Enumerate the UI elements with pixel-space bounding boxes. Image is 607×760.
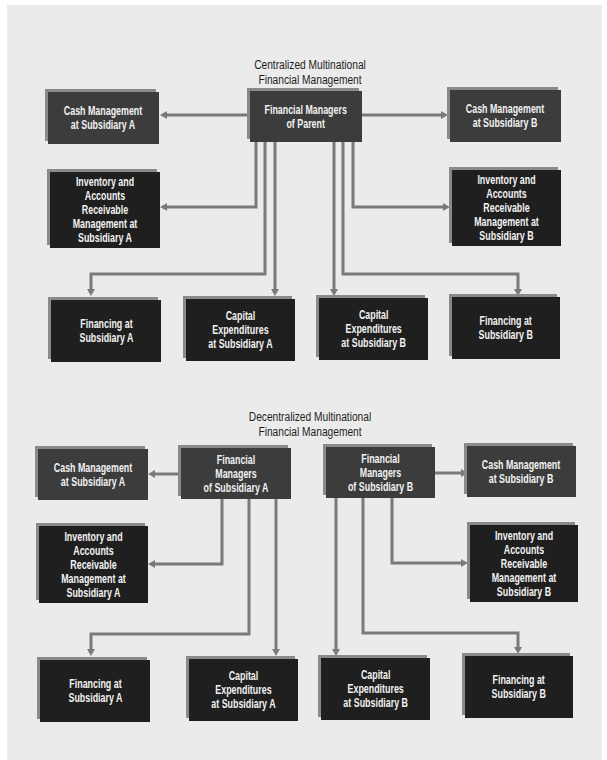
box-label: Cash Management: [482, 458, 560, 472]
box-capital-expenditures-a: Capital Expenditures at Subsidiary A: [189, 659, 298, 721]
box-label: Inventory and: [466, 173, 547, 187]
box-label: Financing at: [492, 673, 546, 687]
box-label: Financial Managers: [195, 453, 276, 481]
box-label: of Subsidiary B: [340, 480, 421, 494]
box-label: Accounts Receivable: [484, 543, 564, 571]
box-inventory-ar-b: Inventory and Accounts Receivable Manage…: [470, 525, 578, 602]
box-label: Inventory and: [53, 530, 134, 544]
box-label: Management at: [64, 217, 145, 231]
box-inventory-ar-a: Inventory and Accounts Receivable Manage…: [39, 526, 148, 603]
box-label: Capital: [343, 668, 408, 682]
decentralized-title: Decentralized Multinational Financial Ma…: [217, 410, 404, 440]
box-label: Expenditures: [211, 683, 275, 697]
box-label: of Parent: [265, 117, 347, 131]
box-label: at Subsidiary B: [466, 116, 544, 130]
box-label: Accounts Receivable: [64, 189, 145, 217]
box-label: Expenditures: [341, 322, 406, 336]
box-label: Subsidiary B: [466, 229, 547, 243]
box-label: at Subsidiary B: [343, 696, 408, 710]
box-label: at Subsidiary B: [341, 336, 406, 350]
box-label: at Subsidiary A: [211, 697, 275, 711]
box-label: Subsidiary A: [79, 331, 133, 345]
box-capital-expenditures-b: Capital Expenditures at Subsidiary B: [319, 298, 428, 360]
box-cash-management-b: Cash Management at Subsidiary B: [467, 446, 576, 497]
box-label: at Subsidiary A: [54, 475, 132, 489]
box-cash-management-a: Cash Management at Subsidiary A: [38, 449, 148, 500]
box-capital-expenditures-a: Capital Expenditures at Subsidiary A: [186, 299, 295, 361]
box-label: Subsidiary B: [492, 687, 546, 701]
box-financial-managers-parent: Financial Managers of Parent: [250, 91, 362, 142]
box-label: Subsidiary A: [64, 231, 145, 245]
decentralized-title-line2: Financial Management: [217, 425, 404, 440]
box-label: Subsidiary B: [484, 585, 564, 599]
box-label: at Subsidiary A: [64, 118, 142, 132]
box-financing-a: Financing at Subsidiary A: [51, 300, 161, 362]
box-financing-b: Financing at Subsidiary B: [452, 297, 560, 359]
box-label: Capital: [341, 308, 406, 322]
decentralized-title-line1: Decentralized Multinational: [217, 410, 404, 425]
centralized-title-line2: Financial Management: [217, 73, 404, 88]
box-label: of Subsidiary A: [195, 481, 276, 495]
box-label: at Subsidiary A: [208, 337, 272, 351]
box-cash-management-a: Cash Management at Subsidiary A: [48, 92, 159, 144]
box-cash-management-b: Cash Management at Subsidiary B: [450, 90, 561, 142]
box-label: Expenditures: [208, 323, 272, 337]
box-financial-managers-subsidiary-a: Financial Managers of Subsidiary A: [181, 448, 291, 499]
box-label: Accounts Receivable: [53, 544, 134, 572]
box-label: Financing at: [479, 314, 533, 328]
box-label: Subsidiary A: [68, 691, 122, 705]
box-label: at Subsidiary B: [482, 472, 560, 486]
centralized-title-line1: Centralized Multinational: [217, 58, 404, 73]
box-label: Financing at: [79, 317, 133, 331]
box-label: Capital: [211, 669, 275, 683]
box-label: Inventory and: [64, 175, 145, 189]
box-financial-managers-subsidiary-b: Financial Managers of Subsidiary B: [326, 447, 435, 498]
box-label: Management at: [53, 572, 134, 586]
box-label: Cash Management: [64, 104, 142, 118]
box-label: Subsidiary B: [479, 328, 533, 342]
box-label: Financing at: [68, 677, 122, 691]
box-label: Cash Management: [54, 461, 132, 475]
box-label: Inventory and: [484, 529, 564, 543]
box-inventory-ar-b: Inventory and Accounts Receivable Manage…: [452, 170, 561, 246]
box-financing-b: Financing at Subsidiary B: [465, 656, 573, 718]
box-label: Management at: [484, 571, 564, 585]
box-capital-expenditures-b: Capital Expenditures at Subsidiary B: [321, 658, 430, 720]
box-label: Cash Management: [466, 102, 544, 116]
box-label: Accounts Receivable: [466, 187, 547, 215]
box-financing-a: Financing at Subsidiary A: [40, 660, 150, 722]
box-label: Capital: [208, 309, 272, 323]
box-label: Subsidiary A: [53, 586, 134, 600]
box-label: Expenditures: [343, 682, 408, 696]
box-label: Financial Managers: [265, 103, 347, 117]
box-inventory-ar-a: Inventory and Accounts Receivable Manage…: [50, 172, 160, 248]
box-label: Management at: [466, 215, 547, 229]
box-label: Financial Managers: [340, 452, 421, 480]
centralized-title: Centralized Multinational Financial Mana…: [217, 58, 404, 88]
